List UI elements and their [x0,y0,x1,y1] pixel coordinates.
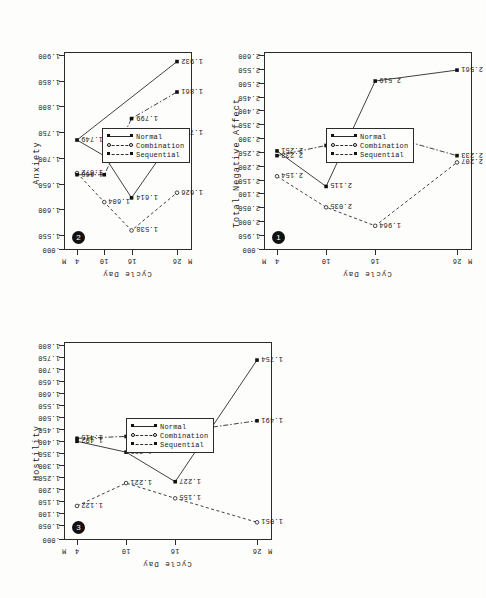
legend-label: Combination [360,142,408,150]
data-point-marker [275,154,279,158]
legend-row-sequential: Sequential [131,440,208,449]
series-lines [228,24,486,302]
data-point-marker [173,480,177,484]
data-point-label: 1.614 [136,193,158,201]
data-point-marker [373,79,377,83]
legend-label: Combination [136,142,184,150]
data-point-label: 2.035 [330,202,352,210]
chart-legend: NormalCombinationSequential [326,128,414,163]
data-point-label: 1.754 [261,355,283,363]
data-point-label: 1.749 [81,135,103,143]
legend-label: Normal [360,133,386,141]
data-point-label: 1.227 [179,477,201,485]
data-point-label: 2.154 [281,171,303,179]
data-point-marker [175,191,179,195]
data-point-marker [75,173,79,177]
legend-label: Combination [160,432,208,440]
series-line-combination [77,483,257,522]
data-point-marker [130,229,134,233]
legend-key-dash-dot-icon [107,150,133,159]
series-lines [28,24,206,302]
data-point-marker [324,185,328,189]
data-point-label: 2.519 [379,76,401,84]
data-point-label: 2.233 [281,151,303,159]
data-point-marker [75,504,79,508]
legend-key-dash-dot-icon [331,150,357,159]
data-point-label: 1.799 [136,114,158,122]
chart-panel-1: Total Negative Affect.0001.9502.0002.050… [228,24,486,302]
data-point-label: 1.932 [181,57,203,65]
data-point-label: 1.122 [81,501,103,509]
data-point-label: 1.964 [379,221,401,229]
data-point-marker [102,200,106,204]
legend-key-dash-dot-icon [131,440,157,449]
data-point-label: 1.051 [261,517,283,525]
legend-label: Normal [136,133,162,141]
data-point-label: 2.561 [461,65,483,73]
data-point-label: 1.861 [181,87,203,95]
series-lines [28,314,286,592]
data-point-marker [373,224,377,228]
data-point-marker [175,60,179,64]
data-point-label: 1.668 [81,170,103,178]
data-point-marker [175,90,179,94]
legend-row-sequential: Sequential [107,150,184,159]
legend-row-sequential: Sequential [331,150,408,159]
data-point-label: 2.233 [461,151,483,159]
series-line-combination [277,162,457,225]
data-point-marker [255,521,259,525]
data-point-label: 1.538 [136,225,158,233]
chart-canvas: Total Negative Affect.0001.9502.0002.050… [228,24,486,302]
legend-label: Sequential [160,441,204,449]
chart-canvas: Hostility.0001.0501.1001.1501.2001.2501.… [28,314,286,592]
legend-label: Sequential [360,151,404,159]
data-point-marker [75,138,79,142]
data-point-label: 1.415 [81,433,103,441]
data-point-marker [124,481,128,485]
data-point-marker [130,117,134,121]
data-point-marker [455,154,459,158]
chart-legend: NormalCombinationSequential [126,418,214,453]
chart-canvas: Anxiety.0001.5501.6001.6501.7001.7501.80… [28,24,206,302]
data-point-label: 1.155 [179,493,201,501]
data-point-marker [275,174,279,178]
data-point-marker [324,206,328,210]
data-point-marker [455,161,459,165]
data-point-marker [455,68,459,72]
legend-label: Sequential [136,151,180,159]
data-point-label: 2.115 [330,181,352,189]
data-point-label: 1.221 [130,478,152,486]
chart-panel-2: Anxiety.0001.5501.6001.6501.7001.7501.80… [28,24,206,302]
data-point-label: 1.604 [108,197,130,205]
data-point-marker [130,196,134,200]
data-point-label: 1.491 [261,416,283,424]
data-point-label: 1.626 [181,188,203,196]
data-point-marker [173,497,177,501]
data-point-marker [275,149,279,153]
chart-panel-3: Hostility.0001.0501.1001.1501.2001.2501.… [28,314,286,592]
legend-label: Normal [160,423,186,431]
chart-legend: NormalCombinationSequential [102,128,190,163]
data-point-marker [255,419,259,423]
data-point-marker [255,358,259,362]
data-point-marker [75,437,79,441]
